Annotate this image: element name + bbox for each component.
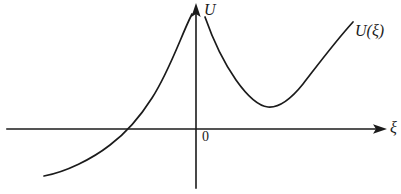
curve-right-branch xyxy=(205,17,353,107)
vertical-axis xyxy=(191,3,200,188)
horizontal-axis xyxy=(7,124,387,133)
curve-left-branch xyxy=(44,14,192,176)
potential-curve-figure: U U(ξ) ξ 0 xyxy=(0,0,401,194)
curve-label: U(ξ) xyxy=(355,23,384,39)
horizontal-axis-label: ξ xyxy=(390,120,397,136)
origin-label: 0 xyxy=(202,130,209,144)
figure-canvas xyxy=(0,0,401,194)
vertical-axis-label: U xyxy=(204,2,216,18)
